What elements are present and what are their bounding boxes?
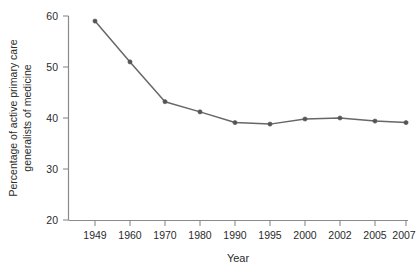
x-tick-label-1980: 1980	[188, 229, 212, 241]
x-tick-label-1949: 1949	[83, 229, 107, 241]
x-tick-label-1960: 1960	[118, 229, 142, 241]
x-tick-label-1970: 1970	[153, 229, 177, 241]
data-point-2005	[373, 119, 377, 123]
x-axis-title: Year	[227, 252, 250, 264]
data-point-1980	[198, 110, 202, 114]
x-tick-label-1990: 1990	[223, 229, 247, 241]
y-axis-title-line-2: generalists of medicine	[21, 64, 33, 172]
data-point-1949	[93, 19, 97, 23]
data-point-1970	[163, 100, 167, 104]
x-tick-label-1995: 1995	[258, 229, 282, 241]
y-tick-label-20: 20	[46, 214, 58, 226]
y-axis-title-line-1: Percentage of active primary care	[7, 39, 19, 196]
x-tick-label-2007: 2007	[392, 229, 416, 241]
data-point-1960	[128, 60, 132, 64]
data-point-2007	[404, 120, 408, 124]
data-point-1995	[268, 122, 272, 126]
x-tick-label-2005: 2005	[363, 229, 387, 241]
y-tick-label-50: 50	[46, 61, 58, 73]
y-tick-label-30: 30	[46, 163, 58, 175]
x-tick-label-2000: 2000	[293, 229, 317, 241]
data-point-1990	[233, 120, 237, 124]
y-tick-label-60: 60	[46, 10, 58, 22]
x-tick-label-2002: 2002	[328, 229, 352, 241]
chart-figure: Percentage of active primary care genera…	[0, 0, 418, 276]
line-chart: Percentage of active primary care genera…	[0, 0, 418, 276]
y-tick-label-40: 40	[46, 112, 58, 124]
data-point-2002	[338, 116, 342, 120]
data-point-2000	[303, 117, 307, 121]
